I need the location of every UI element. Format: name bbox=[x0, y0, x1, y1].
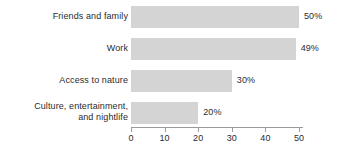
category-label: Culture, entertainment, and nightlife bbox=[2, 101, 128, 123]
bar-value-label: 20% bbox=[203, 107, 221, 118]
x-axis-tick bbox=[299, 128, 300, 132]
x-axis-tick bbox=[198, 128, 199, 132]
plot-area: Friends and family 50% Work 49% Access t… bbox=[0, 0, 345, 152]
chart-row: Access to nature 30% bbox=[0, 70, 345, 92]
x-axis-tick bbox=[165, 128, 166, 132]
bar bbox=[131, 6, 299, 28]
bar-value-label: 50% bbox=[304, 11, 322, 22]
bar bbox=[131, 38, 296, 60]
chart-row: Culture, entertainment, and nightlife 20… bbox=[0, 102, 345, 124]
category-label: Work bbox=[2, 43, 128, 54]
bar bbox=[131, 102, 198, 124]
category-label: Access to nature bbox=[2, 75, 128, 86]
x-axis-line bbox=[131, 127, 303, 128]
bar-value-label: 49% bbox=[301, 43, 319, 54]
category-label: Friends and family bbox=[2, 11, 128, 22]
x-axis-tick-label: 20 bbox=[186, 133, 210, 144]
x-axis-tick-label: 30 bbox=[220, 133, 244, 144]
x-axis-tick bbox=[232, 128, 233, 132]
x-axis-tick-label: 10 bbox=[153, 133, 177, 144]
x-axis-tick-label: 0 bbox=[119, 133, 143, 144]
x-axis-tick bbox=[131, 128, 132, 132]
x-axis-tick-label: 50 bbox=[287, 133, 311, 144]
bar bbox=[131, 70, 232, 92]
x-axis-tick bbox=[265, 128, 266, 132]
x-axis-tick-label: 40 bbox=[253, 133, 277, 144]
chart-row: Work 49% bbox=[0, 38, 345, 60]
bar-chart: Friends and family 50% Work 49% Access t… bbox=[0, 0, 345, 152]
chart-row: Friends and family 50% bbox=[0, 6, 345, 28]
bar-value-label: 30% bbox=[237, 75, 255, 86]
